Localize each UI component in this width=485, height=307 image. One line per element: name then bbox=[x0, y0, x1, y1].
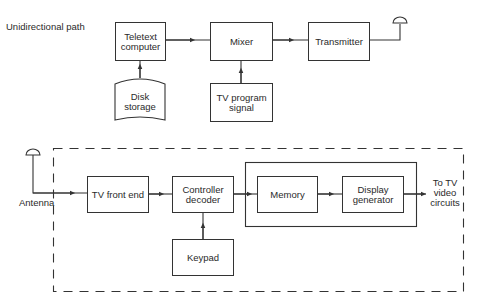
transmitter-block: Transmitter bbox=[308, 22, 370, 61]
display-generator-label: Display generator bbox=[343, 185, 403, 205]
memory-block: Memory bbox=[257, 176, 318, 213]
tv-front-end-block: TV front end bbox=[87, 176, 149, 213]
mixer-block: Mixer bbox=[210, 22, 273, 61]
tv-program-signal-label: TV program signal bbox=[211, 93, 272, 113]
keypad-label: Keypad bbox=[187, 253, 219, 263]
mixer-label: Mixer bbox=[230, 37, 253, 47]
display-generator-block: Display generator bbox=[342, 176, 404, 213]
section-title: Unidirectional path bbox=[6, 22, 85, 32]
disk-storage-label: Disk storage bbox=[115, 92, 165, 112]
teletext-computer-block: Teletext computer bbox=[115, 22, 166, 61]
transmitter-label: Transmitter bbox=[315, 37, 363, 47]
tv-front-end-label: TV front end bbox=[92, 190, 144, 200]
tv-program-signal-block: TV program signal bbox=[210, 83, 273, 122]
controller-decoder-block: Controller decoder bbox=[172, 176, 234, 213]
keypad-block: Keypad bbox=[172, 239, 234, 276]
controller-decoder-label: Controller decoder bbox=[173, 185, 233, 205]
teletext-computer-label: Teletext computer bbox=[116, 32, 165, 52]
antenna-label: Antenna bbox=[19, 198, 54, 208]
output-label: To TV video circuits bbox=[428, 178, 462, 208]
memory-label: Memory bbox=[270, 190, 304, 200]
